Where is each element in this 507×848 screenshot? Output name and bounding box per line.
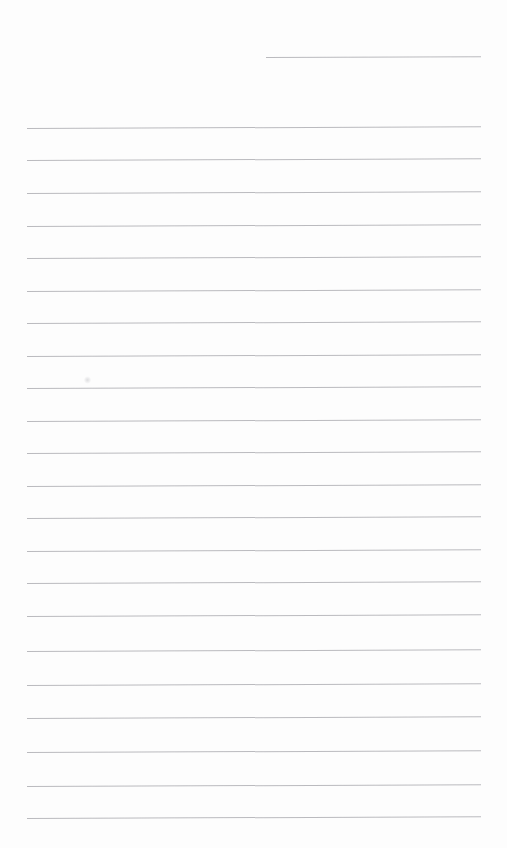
ruled-line [27,451,481,454]
ruled-line [27,256,481,259]
ruled-line [27,549,481,552]
scanned-page [0,0,507,848]
ruled-line [27,581,481,584]
ruled-line [27,784,481,787]
ruled-line [27,484,481,487]
ruled-line [27,354,481,357]
partial-ruled-line [266,56,481,58]
ruled-line [27,816,481,819]
ruled-line [27,750,481,753]
ruled-line [27,716,481,719]
ruled-line [27,321,481,324]
ruled-line [27,191,481,194]
ruled-line [27,126,481,129]
ruled-line [27,649,481,652]
ruled-line [27,289,481,292]
ruled-line [27,386,481,389]
ruled-line [27,158,481,161]
ruled-line [27,516,481,519]
ruled-line-layer [0,0,507,848]
ruled-line [27,614,481,617]
ruled-line [27,419,481,422]
ruled-line [27,224,481,227]
ruled-line [27,683,481,686]
